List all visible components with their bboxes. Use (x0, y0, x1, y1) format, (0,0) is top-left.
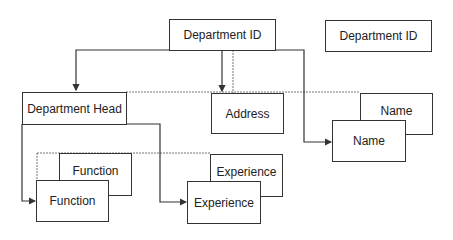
node-department-id-standalone: Department ID (325, 20, 432, 52)
node-name-front: Name (332, 120, 406, 162)
node-experience-front: Experience (187, 181, 261, 224)
edge-root-head (76, 50, 169, 90)
node-function-front: Function (36, 180, 109, 222)
node-address: Address (211, 93, 284, 134)
edge-head-function (22, 124, 35, 201)
edge-head-experience (126, 124, 186, 202)
node-department-head: Department Head (22, 92, 127, 125)
node-department-id: Department ID (169, 19, 276, 51)
